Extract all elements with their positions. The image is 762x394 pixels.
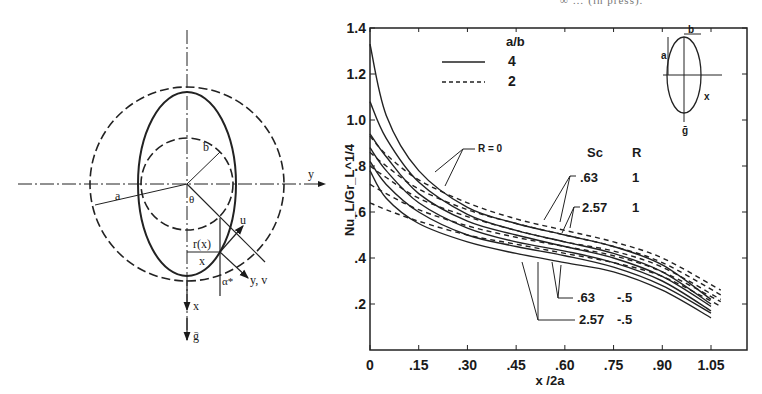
x-tick-label: .15 xyxy=(409,357,429,373)
row-sc-3: 2.57 xyxy=(579,312,604,327)
y-axis-ticks: .2.4.6.81.01.21.4 xyxy=(347,20,747,312)
y-tick-label: .4 xyxy=(354,250,366,266)
chart-svg: .2.4.6.81.01.21.4 0.15.30.45.60.75.901.0… xyxy=(330,0,762,394)
label-gravity: ḡ xyxy=(193,329,199,343)
legend-title: a/b xyxy=(506,34,525,49)
x-tick-label: .75 xyxy=(604,357,624,373)
label-theta: θ xyxy=(189,193,194,205)
radius-a-line xyxy=(95,184,187,205)
x-tick-label: 0 xyxy=(366,357,374,373)
label-yv: y, v xyxy=(250,273,267,287)
row-sc-1: 2.57 xyxy=(582,200,607,215)
u-arrow xyxy=(220,226,243,252)
inset-label-b: b xyxy=(688,24,694,35)
row-r-2: -.5 xyxy=(617,290,632,305)
y-tick-label: 1.0 xyxy=(347,112,367,128)
row-sc-0: .63 xyxy=(580,170,598,185)
x-tick-label: .30 xyxy=(458,357,478,373)
nusselt-chart: .2.4.6.81.01.21.4 0.15.30.45.60.75.901.0… xyxy=(330,0,762,394)
label-b: b xyxy=(203,140,209,154)
row-r-0: 1 xyxy=(632,170,639,185)
header-sc: Sc xyxy=(587,145,603,160)
y-tick-label: 1.2 xyxy=(347,66,367,82)
inset-label-g: ḡ xyxy=(682,125,688,136)
label-a: a xyxy=(115,189,121,203)
label-x-local: x xyxy=(199,254,205,268)
curve-7 xyxy=(370,152,721,295)
y-axis-label: y xyxy=(308,167,314,181)
x-axis-ticks: 0.15.30.45.60.75.901.05 xyxy=(366,28,725,373)
x-tick-label: .90 xyxy=(653,357,673,373)
schematic-svg: y a b θ u r(x) x α* y, v x ḡ xyxy=(0,0,330,394)
curve-1 xyxy=(370,102,711,304)
x-tick-label: 1.05 xyxy=(697,357,724,373)
y-tick-label: .2 xyxy=(354,296,366,312)
y-tick-label: 1.4 xyxy=(347,20,367,36)
label-alpha: α* xyxy=(222,275,233,287)
label-u: u xyxy=(240,213,246,227)
inset-label-a: a xyxy=(661,50,667,61)
curve-5 xyxy=(370,171,711,318)
inset-label-x: x xyxy=(704,91,710,102)
x-tick-label: .60 xyxy=(555,357,575,373)
y-axis-label: Nu_L/Gr_L^1/4 xyxy=(342,143,357,236)
curve-6 xyxy=(370,136,721,290)
legend: a/b 4 2 xyxy=(442,34,525,89)
x-tick-label: .45 xyxy=(506,357,526,373)
radius-b-line xyxy=(187,152,220,184)
row-r-3: -.5 xyxy=(617,312,632,327)
annotation-r0: R = 0 xyxy=(478,143,503,154)
x-axis-label: x /2a xyxy=(536,373,566,388)
header-r: R xyxy=(632,145,642,160)
row-r-1: 1 xyxy=(632,200,639,215)
inset-ellipse-diagram: b a x ḡ xyxy=(661,24,722,136)
row-sc-2: .63 xyxy=(577,290,595,305)
label-r-of-x: r(x) xyxy=(193,237,211,251)
label-x-axis: x xyxy=(193,299,199,313)
curve-0 xyxy=(370,44,711,299)
legend-entry-2: 2 xyxy=(508,73,516,89)
legend-entry-4: 4 xyxy=(508,53,516,69)
ellipse-schematic: y a b θ u r(x) x α* y, v x ḡ xyxy=(0,0,330,394)
